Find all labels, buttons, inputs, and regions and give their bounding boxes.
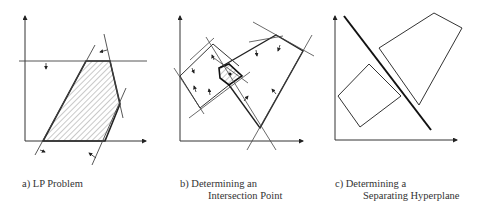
panel-c-separating-hyperplane xyxy=(335,13,462,140)
caption-c-line2: Separating Hyperplane xyxy=(335,190,460,202)
caption-c: c) Determining a Separating Hyperplane xyxy=(335,178,460,202)
cutting-lines xyxy=(174,22,314,150)
separating-hyperplane xyxy=(344,16,431,130)
panel-a-lp-problem xyxy=(19,16,147,165)
caption-c-line1: c) Determining a xyxy=(335,178,406,189)
convex-set-small xyxy=(338,64,401,127)
panel-b-intersection-point xyxy=(174,16,314,150)
axes xyxy=(335,16,457,140)
caption-b-line1: b) Determining an xyxy=(180,178,257,189)
feasible-region xyxy=(43,61,120,141)
caption-b: b) Determining an Intersection Point xyxy=(180,178,282,202)
caption-b-line2: Intersection Point xyxy=(180,190,282,202)
caption-a-line1: a) LP Problem xyxy=(22,178,83,189)
caption-a: a) LP Problem xyxy=(22,178,83,190)
convex-set-large xyxy=(379,13,462,105)
